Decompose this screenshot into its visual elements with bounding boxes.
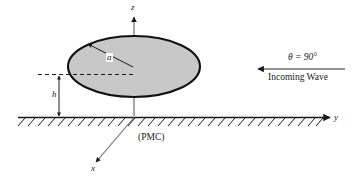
z-axis-label: z <box>131 3 135 12</box>
elliptical-disk <box>68 36 200 97</box>
incoming-wave-caption: Incoming Wave <box>268 73 328 83</box>
ground-hatching <box>18 118 323 126</box>
x-axis <box>96 118 134 163</box>
x-axis-label: x <box>91 164 95 173</box>
incidence-angle-label: θ = 90° <box>288 53 317 63</box>
y-axis-label: y <box>334 113 338 122</box>
height-label: h <box>52 90 57 99</box>
pmc-ground-label: (PMC) <box>138 133 164 143</box>
disk-radius-label: a <box>106 53 113 62</box>
figure-canvas: z y x a h (PMC) θ = 90° Incoming Wave <box>0 0 360 177</box>
